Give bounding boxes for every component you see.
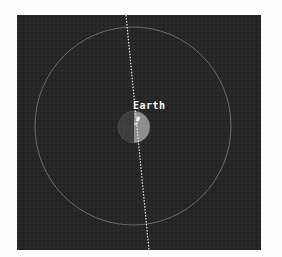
scene-canvas (17, 15, 261, 250)
page: Earth (0, 0, 282, 257)
space-view[interactable]: Earth (17, 15, 261, 250)
earth-label: Earth (133, 101, 166, 111)
